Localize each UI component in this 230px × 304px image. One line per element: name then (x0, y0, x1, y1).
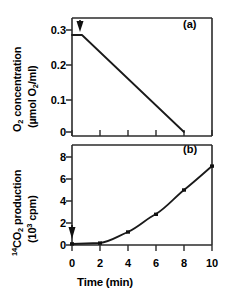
plot-vector-layer (0, 0, 230, 304)
panel-a-data-line (72, 35, 184, 132)
panel-b-frame (72, 145, 212, 245)
panel-b-data-line (72, 166, 212, 244)
panel-a-addition-arrow-icon (77, 20, 84, 32)
panel-a-y-ticks (66, 30, 72, 132)
panel-a-x-ticks (72, 130, 212, 136)
figure-panel-group: O2 concentration (µmol O2/ml) 0.3 0.2 0.… (0, 0, 230, 304)
panel-b-data-points (70, 164, 214, 245)
panel-b-x-ticks (72, 245, 212, 251)
panel-a-frame (72, 18, 212, 136)
panel-b-addition-arrow-icon (69, 225, 76, 239)
